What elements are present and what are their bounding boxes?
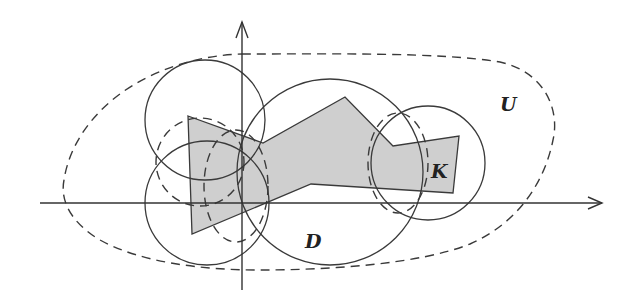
- diagram-canvas: U K D: [0, 0, 634, 306]
- label-K: K: [430, 160, 449, 182]
- label-U: U: [500, 93, 518, 115]
- label-D: D: [304, 230, 322, 252]
- set-K-polygon: [188, 97, 459, 234]
